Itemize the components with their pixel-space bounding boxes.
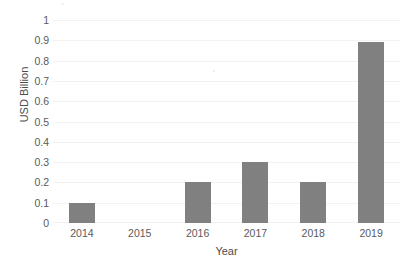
plot-area: [53, 20, 400, 223]
y-tick-label: 0.1: [7, 198, 49, 209]
bar-2016: [185, 182, 211, 223]
bar-slot: [169, 20, 227, 223]
x-tick-label: 2015: [111, 227, 169, 239]
bar-2014: [69, 203, 95, 223]
y-tick-label: 0.5: [7, 117, 49, 128]
x-tick-label: 2016: [169, 227, 227, 239]
bar-chart: USD Billion 1 0.9 0.8 0.7 0.6 0.5 0.4 0.…: [0, 0, 410, 267]
bar-series: [53, 20, 400, 223]
y-tick-label: 1: [7, 15, 49, 26]
y-tick-label: 0.3: [7, 157, 49, 168]
x-tick-label: 2018: [284, 227, 342, 239]
bar-2019: [358, 42, 384, 223]
y-tick-label: 0.8: [7, 56, 49, 67]
y-tick-label: 0.6: [7, 96, 49, 107]
bar-slot: [111, 20, 169, 223]
scan-speck: [62, 3, 64, 5]
x-axis-title: Year: [53, 245, 400, 257]
y-tick-label: 0: [7, 218, 49, 229]
y-tick-label: 0.7: [7, 76, 49, 87]
x-axis-tick-labels: 2014 2015 2016 2017 2018 2019: [53, 227, 400, 241]
cropped-title-artifact: [28, 0, 208, 5]
y-tick-label: 0.4: [7, 137, 49, 148]
bar-slot: [53, 20, 111, 223]
x-tick-label: 2014: [53, 227, 111, 239]
x-tick-label: 2017: [227, 227, 285, 239]
bar-slot: [284, 20, 342, 223]
bar-2017: [242, 162, 268, 223]
y-tick-label: 0.2: [7, 177, 49, 188]
y-axis-tick-labels: 1 0.9 0.8 0.7 0.6 0.5 0.4 0.3 0.2 0.1 0: [5, 20, 49, 223]
y-tick-label: 0.9: [7, 35, 49, 46]
bar-slot: [342, 20, 400, 223]
bar-2018: [300, 182, 326, 223]
x-tick-label: 2019: [342, 227, 400, 239]
bar-slot: [227, 20, 285, 223]
